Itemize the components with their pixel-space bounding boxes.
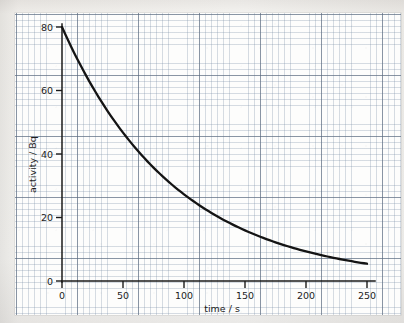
screenshot-page: 0 20 40 60 80 activity / Bq 0 50 100 150… [0, 0, 404, 323]
decay-chart: 0 20 40 60 80 activity / Bq 0 50 100 150… [0, 0, 404, 323]
x-axis-title: time / s [204, 303, 240, 314]
decay-curve-line [62, 27, 367, 264]
y-axis: 0 20 40 60 80 activity / Bq [27, 22, 62, 287]
x-axis: 0 50 100 150 200 250 time / s [59, 281, 376, 314]
x-tick-label-250: 250 [358, 290, 376, 301]
y-tick-label-20: 20 [41, 212, 53, 223]
x-tick-label-200: 200 [297, 290, 315, 301]
x-tick-label-150: 150 [236, 290, 254, 301]
x-tick-label-50: 50 [117, 290, 129, 301]
y-tick-label-0: 0 [47, 276, 53, 287]
y-tick-label-80: 80 [41, 22, 53, 33]
x-tick-label-0: 0 [59, 290, 65, 301]
y-tick-label-60: 60 [41, 85, 53, 96]
y-tick-label-40: 40 [41, 149, 53, 160]
y-axis-title: activity / Bq [27, 136, 38, 193]
x-tick-label-100: 100 [175, 290, 193, 301]
